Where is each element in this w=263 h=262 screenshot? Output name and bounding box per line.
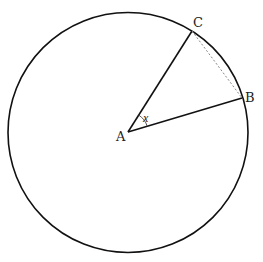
- angle-label-x: x: [142, 111, 149, 125]
- label-b: B: [245, 90, 255, 105]
- radius-ac: [128, 31, 192, 132]
- label-a: A: [115, 129, 126, 144]
- circle-diagram: C B A x: [0, 0, 263, 262]
- label-c: C: [193, 15, 203, 30]
- chord-bc: [192, 31, 242, 98]
- circle: [8, 13, 248, 253]
